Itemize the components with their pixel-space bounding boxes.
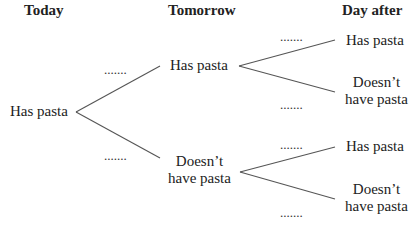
node-tomorrow-doesnt-have-pasta: Doesn’t have pasta <box>168 153 231 187</box>
blank-doesnt-to-has[interactable]: ....... <box>280 137 303 153</box>
branch-doesnt-doesnt <box>240 172 335 199</box>
node-tomorrow-has-pasta: Has pasta <box>170 57 228 74</box>
node-after-doesnt-doesnt-have-pasta: Doesn’t have pasta <box>345 181 408 215</box>
blank-root-to-doesnt[interactable]: ....... <box>104 148 127 164</box>
node-label-line2: have pasta <box>168 170 231 187</box>
node-after-has-doesnt-have-pasta: Doesn’t have pasta <box>345 74 408 108</box>
node-label-line1: Doesn’t <box>168 153 231 170</box>
node-today-has-pasta: Has pasta <box>10 103 68 120</box>
node-label-line2: have pasta <box>345 91 408 108</box>
node-after-has-has-pasta: Has pasta <box>346 32 404 49</box>
node-label-line1: Doesn’t <box>345 181 408 198</box>
blank-has-to-has[interactable]: ....... <box>280 29 303 45</box>
blank-doesnt-to-doesnt[interactable]: ....... <box>280 205 303 221</box>
blank-has-to-doesnt[interactable]: ....... <box>280 97 303 113</box>
node-after-doesnt-has-pasta: Has pasta <box>346 138 404 155</box>
node-label-line2: have pasta <box>345 198 408 215</box>
node-label-line1: Doesn’t <box>345 74 408 91</box>
branch-has-doesnt <box>239 66 335 92</box>
blank-root-to-has[interactable]: ....... <box>104 62 127 78</box>
